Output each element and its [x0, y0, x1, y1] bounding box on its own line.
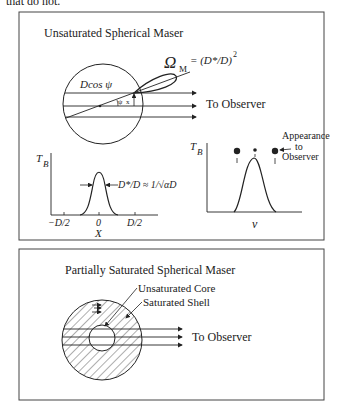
width-annotation: D*/D ≈ 1/√αD	[117, 179, 177, 190]
omega-symbol: Ω	[164, 53, 176, 72]
panel-unsaturated: Unsaturated Spherical Maser Ω M = (D*/D)…	[19, 12, 330, 240]
appearance-label-line1: Appearance	[282, 130, 330, 141]
shell-label: Saturated Shell	[143, 296, 210, 308]
y-axis-label: T	[36, 152, 43, 164]
beam-solid-angle-formula: Ω M = (D*/D) 2	[164, 50, 237, 74]
panel-title: Partially Saturated Spherical Maser	[65, 263, 235, 277]
appearance-label-line3: Observer	[282, 151, 319, 162]
omega-subscript: M	[179, 64, 187, 74]
angle-label: ψ	[118, 98, 123, 106]
tick-half-d: D/2	[126, 217, 142, 228]
omega-rhs: = (D*/D)	[190, 54, 232, 67]
panel-frame	[19, 12, 324, 240]
panel-title: Unsaturated Spherical Maser	[44, 26, 183, 40]
to-observer-label: To Observer	[206, 97, 265, 111]
x-offset-label: x	[126, 98, 130, 106]
y-axis-subscript: B	[43, 159, 49, 169]
x-axis-label: X	[94, 227, 103, 239]
chord-label: Dcos ψ	[79, 78, 112, 90]
plot-brightness-vs-x: T B D*/D ≈ 1/√αD −D/2 0 D/2 X	[36, 152, 177, 239]
to-observer-label: To Observer	[192, 330, 251, 344]
core-label: Unsaturated Core	[138, 282, 215, 294]
maser-diagram: Unsaturated Spherical Maser Ω M = (D*/D)…	[0, 0, 342, 415]
omega-exponent: 2	[233, 50, 237, 59]
y-axis-label: T	[190, 140, 197, 152]
plot-brightness-vs-frequency: T B Appearance to Observer ν	[190, 130, 330, 231]
x-axis-label: ν	[252, 217, 258, 231]
tick-neg-half-d: −D/2	[48, 217, 70, 228]
sphere-unsaturated: Dcos ψ ψ x	[63, 64, 196, 144]
y-axis-subscript: B	[197, 147, 203, 157]
panel-partially-saturated: Partially Saturated Spherical Maser Unsa…	[19, 249, 324, 400]
